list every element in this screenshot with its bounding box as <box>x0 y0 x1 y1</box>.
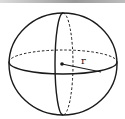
radius-label: r <box>81 55 86 66</box>
sphere-diagram: r <box>0 0 125 119</box>
equator-back-dashed <box>9 50 117 62</box>
